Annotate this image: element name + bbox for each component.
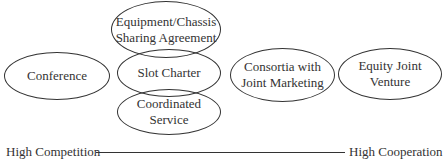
axis-line (96, 152, 345, 153)
node-label-line-2: Service (137, 112, 201, 128)
node-label-line-2: Venture (358, 74, 421, 90)
node-label-line-1: Equity Joint (358, 58, 421, 74)
node-label: Slot Charter (137, 65, 200, 81)
node-label-line-1: Consortia with (241, 59, 324, 75)
node-equity-joint-venture: Equity Joint Venture (338, 48, 442, 100)
node-label-line-2: Sharing Agreement (116, 30, 217, 46)
node-label-line-1: Equipment/Chassis (116, 14, 217, 30)
node-label: Conference (27, 68, 87, 84)
axis-label-high-competition: High Competition (6, 144, 100, 160)
node-coordinated-service: Coordinated Service (117, 89, 221, 135)
axis-label-high-cooperation: High Cooperation (349, 144, 443, 160)
node-conference: Conference (4, 52, 110, 100)
node-consortia-joint-marketing: Consortia with Joint Marketing (230, 48, 335, 102)
node-label-line-2: Joint Marketing (241, 75, 324, 91)
node-label-line-1: Coordinated (137, 96, 201, 112)
